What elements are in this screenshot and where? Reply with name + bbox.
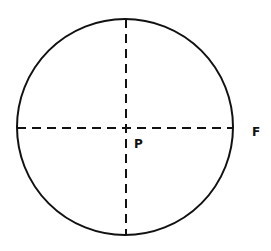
center-label-p: P (134, 137, 143, 151)
diagram-canvas: P F (0, 0, 271, 251)
edge-label-f: F (252, 125, 260, 139)
